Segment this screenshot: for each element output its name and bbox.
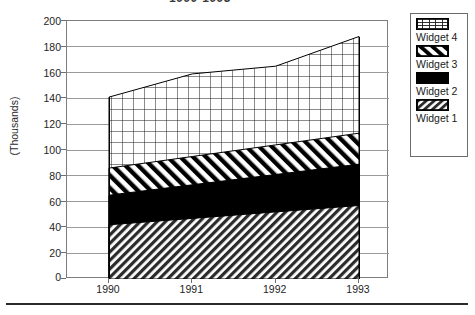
legend-label: Widget 1 [416,111,463,125]
y-tick-mark [61,123,66,124]
y-tick-mark [61,175,66,176]
y-tick-label: 200 [21,15,61,27]
stacked-area-plot [67,21,389,279]
plot-area [66,20,388,278]
y-tick-label: 140 [21,92,61,104]
y-tick-label: 0 [21,271,61,283]
legend-item-widget-2: Widget 2 [416,72,463,98]
white-diagonal-hatch-swatch [416,45,449,57]
y-tick-mark [61,20,66,21]
y-tick-mark [61,278,66,279]
x-tick-label: 1993 [328,283,388,295]
legend-label: Widget 4 [416,30,463,44]
y-tick-label: 180 [21,41,61,53]
y-tick-label: 20 [21,247,61,259]
x-tick-label: 1991 [161,283,221,295]
y-tick-label: 80 [21,170,61,182]
bottom-divider [6,303,468,305]
y-tick-label: 160 [21,67,61,79]
y-tick-label: 40 [21,221,61,233]
y-tick-label: 120 [21,118,61,130]
y-tick-mark [61,252,66,253]
chart-figure: 1990-1993 (Thousands) [0,0,475,315]
legend-item-widget-4: Widget 4 [416,18,463,44]
x-tick-label: 1990 [78,283,138,295]
x-tick-label: 1992 [245,283,305,295]
y-tick-mark [61,97,66,98]
y-tick-mark [61,149,66,150]
grid-crosshatch-swatch [416,18,449,30]
solid-black-swatch [416,72,449,84]
y-tick-label: 60 [21,196,61,208]
y-tick-mark [61,46,66,47]
y-axis-title: (Thousands) [8,81,20,171]
dark-diagonal-hatch-swatch [416,99,449,111]
chart-title: 1990-1993 [0,0,400,5]
legend-label: Widget 2 [416,84,463,98]
legend-item-widget-3: Widget 3 [416,45,463,71]
y-tick-mark [61,201,66,202]
chart-legend: Widget 4 Widget 3 Widget 2 [410,13,468,157]
legend-label: Widget 3 [416,57,463,71]
y-tick-mark [61,226,66,227]
y-tick-mark [61,72,66,73]
y-tick-label: 100 [21,144,61,156]
legend-item-widget-1: Widget 1 [416,99,463,125]
